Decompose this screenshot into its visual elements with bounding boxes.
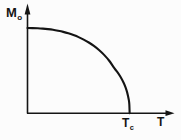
spontaneous-magnetization-curve xyxy=(28,28,130,113)
critical-temperature-main: T xyxy=(122,116,129,130)
y-axis-label-subscript: o xyxy=(17,13,22,22)
y-axis-label-main: M xyxy=(6,5,17,20)
plot-area xyxy=(0,0,181,140)
critical-temperature-subscript: c xyxy=(130,123,134,132)
x-axis-label: T xyxy=(157,116,164,128)
y-axis-arrow-icon xyxy=(25,4,31,15)
magnetization-vs-temperature-figure: Mo Tc T xyxy=(0,0,181,140)
x-axis-label-main: T xyxy=(157,115,164,129)
critical-temperature-label: Tc xyxy=(122,117,133,129)
y-axis-label: Mo xyxy=(6,6,22,19)
x-axis-arrow-icon xyxy=(166,110,175,116)
